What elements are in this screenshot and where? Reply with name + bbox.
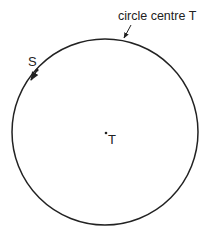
diagram-canvas: circle centre T S T: [0, 0, 207, 235]
centre-label: T: [108, 132, 116, 147]
point-s-label: S: [28, 54, 37, 69]
label-arrow: [124, 25, 131, 38]
circle-label: circle centre T: [118, 9, 197, 23]
circle: [12, 39, 198, 225]
centre-point: [105, 132, 108, 135]
